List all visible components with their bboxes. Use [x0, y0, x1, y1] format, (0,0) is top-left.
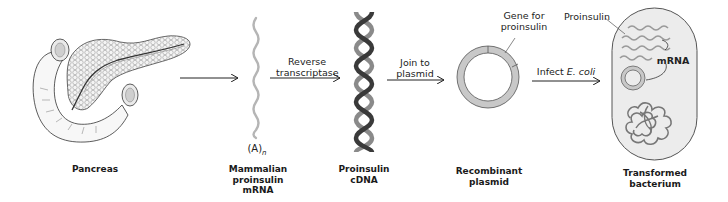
- mrna-label-line1: Mammalian: [225, 164, 291, 175]
- proinsulin-callout: Proinsulin: [560, 11, 610, 22]
- stage-label-bacterium: Transformed bacterium: [618, 168, 692, 189]
- mrna-strand-icon: [254, 18, 259, 138]
- stage-label-mrna: Mammalian proinsulin mRNA: [225, 164, 291, 196]
- step3-label-line2: plasmid: [390, 68, 440, 79]
- step2-label: Reverse transcriptase: [276, 56, 338, 78]
- gene-for-proinsulin-callout: Gene for proinsulin: [497, 10, 551, 32]
- bacterium-label-line2: bacterium: [618, 179, 692, 190]
- pancreas-illustration: [33, 36, 190, 142]
- gene-callout-line2: proinsulin: [497, 21, 551, 32]
- transformed-bacterium-icon: [605, 8, 697, 160]
- step2-label-line2: transcriptase: [276, 67, 338, 78]
- gene-callout-line1: Gene for: [497, 10, 551, 21]
- step3-label: Join to plasmid: [390, 57, 440, 79]
- stage-label-cdna: Proinsulin cDNA: [333, 164, 395, 185]
- cdna-label-line1: Proinsulin: [333, 164, 395, 175]
- stage-label-plasmid: Recombinant plasmid: [450, 166, 528, 187]
- poly-a-text: (A): [247, 143, 262, 154]
- mrna-label-line2: proinsulin: [225, 175, 291, 186]
- cdna-label-line2: cDNA: [333, 175, 395, 186]
- plasmid-label-line1: Recombinant: [450, 166, 528, 177]
- step3-label-line1: Join to: [390, 57, 440, 68]
- step2-label-line1: Reverse: [276, 56, 338, 67]
- poly-a-subscript: n: [262, 149, 266, 157]
- bacterium-label-line1: Transformed: [618, 168, 692, 179]
- recombinant-plasmid-icon: [457, 38, 519, 108]
- poly-a-tail-label: (A)n: [242, 143, 272, 159]
- mrna-callout: mRNA: [656, 55, 690, 66]
- step4-label-prefix: Infect: [537, 66, 567, 77]
- pancreas-label: Pancreas: [60, 164, 130, 175]
- mrna-label-line3: mRNA: [225, 185, 291, 196]
- dna-double-helix-icon: [356, 12, 372, 152]
- gene-callout-leader: [505, 38, 515, 53]
- step4-label-organism: E. coli: [567, 66, 595, 77]
- step4-label: Infect E. coli: [530, 66, 602, 77]
- stage-label-pancreas: Pancreas: [60, 164, 130, 175]
- plasmid-label-line2: plasmid: [450, 177, 528, 188]
